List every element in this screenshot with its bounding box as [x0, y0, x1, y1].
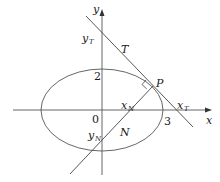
- svg-text:y: y: [81, 32, 89, 45]
- x-n-label: x N: [121, 99, 135, 113]
- x-t-label: x T: [177, 99, 190, 113]
- x-axis-label: x: [206, 114, 213, 127]
- tangent-t-label: T: [121, 43, 130, 56]
- svg-text:y: y: [87, 129, 95, 142]
- y-axis-arrow-icon: [100, 9, 105, 16]
- x-intercept-3-label: 3: [164, 115, 171, 128]
- normal-n-label: N: [119, 126, 130, 139]
- svg-text:T: T: [89, 38, 95, 46]
- y-n-label: y N: [87, 129, 102, 143]
- x-axis-arrow-icon: [205, 108, 212, 113]
- normal-line: [70, 86, 153, 174]
- y-axis-label: y: [92, 3, 100, 16]
- svg-text:x: x: [177, 99, 184, 112]
- y-intercept-2-label: 2: [94, 70, 101, 83]
- svg-text:N: N: [94, 135, 102, 143]
- svg-text:N: N: [127, 105, 135, 113]
- origin-label: 0: [92, 113, 99, 126]
- svg-text:x: x: [121, 99, 128, 112]
- point-p-label: P: [155, 77, 164, 90]
- y-t-label: y T: [81, 32, 95, 46]
- svg-text:T: T: [184, 105, 190, 113]
- diagram-canvas: y x 0 2 3 P T N y T x T x N y N: [0, 0, 220, 182]
